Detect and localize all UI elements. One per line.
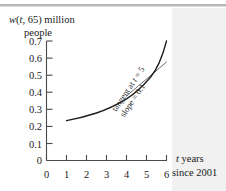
y-tick-labels: 0.7 0.6 0.5 0.4 0.3 0.2 0.1 0 [29, 36, 43, 166]
y-tick-label: 0 [37, 155, 42, 166]
y-axis-title-w: w [9, 14, 16, 25]
x-axis-ticks [47, 155, 167, 161]
svg-text:t years: t years [176, 153, 204, 164]
x-tick-label: 6 [164, 169, 169, 180]
x-tick-label: 0 [44, 169, 49, 180]
y-axis-title-rest: , 65) million [22, 14, 75, 26]
x-tick-labels: 0 1 2 3 4 5 6 [44, 169, 169, 180]
y-tick-label: 0.4 [29, 87, 43, 98]
x-tick-label: 3 [104, 169, 109, 180]
figure-container: 0.7 0.6 0.5 0.4 0.3 0.2 0.1 0 0 1 2 3 4 … [0, 0, 226, 191]
x-tick-label: 5 [144, 169, 149, 180]
x-axis-title: t years since 2001 [172, 153, 217, 178]
y-tick-label: 0.5 [29, 70, 42, 81]
tangent-annotation: tangent at t = 5 slope = 0.1 [109, 65, 154, 119]
x-tick-label: 2 [84, 169, 89, 180]
y-tick-label: 0.6 [29, 53, 42, 64]
svg-text:w(t, 65) million: w(t, 65) million [9, 14, 75, 26]
x-axis-title-rest: years [182, 153, 204, 164]
x-axis-title-line2: since 2001 [172, 167, 217, 178]
x-tick-label: 1 [64, 169, 69, 180]
chart-plot: 0.7 0.6 0.5 0.4 0.3 0.2 0.1 0 0 1 2 3 4 … [0, 0, 226, 191]
y-tick-label: 0.2 [29, 121, 42, 132]
y-tick-label: 0.3 [29, 104, 42, 115]
y-axis-title-line2: people [24, 27, 52, 38]
x-tick-label: 4 [124, 169, 130, 180]
y-tick-label: 0.1 [29, 139, 42, 150]
y-axis-ticks [47, 41, 53, 144]
y-axis-title: w(t, 65) million people [9, 14, 75, 38]
